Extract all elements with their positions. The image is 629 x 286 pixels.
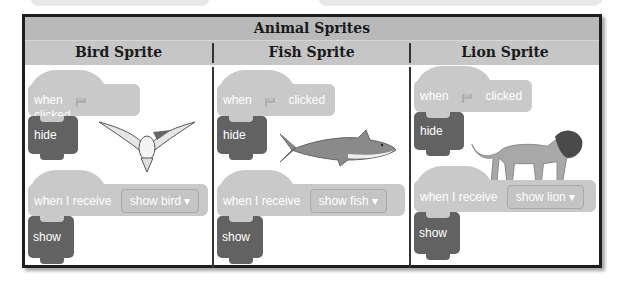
chevron-down-icon: ▾ (569, 190, 575, 204)
when-i-receive-block[interactable]: when I receive show bird ▾ (28, 184, 208, 216)
block-notch (229, 116, 253, 122)
block-notch (40, 116, 64, 122)
when-flag-clicked-block[interactable]: when clicked (28, 84, 140, 116)
hide-block[interactable]: hide (28, 116, 78, 154)
column-fish: Fish Sprite when clicked hide when I rec… (214, 17, 409, 265)
animal-sprites-table: Animal Sprites Bird Sprite when clicked … (22, 14, 602, 268)
green-flag-icon (460, 90, 474, 104)
message-dropdown[interactable]: show lion ▾ (507, 185, 584, 209)
top-decor-left (30, 0, 210, 6)
show-block[interactable]: show (28, 216, 74, 258)
block-notch (40, 216, 64, 222)
hide-block[interactable]: hide (217, 116, 267, 154)
show-block[interactable]: show (217, 216, 263, 258)
block-notch (426, 112, 450, 118)
message-dropdown[interactable]: show bird ▾ (121, 189, 200, 213)
when-flag-clicked-block[interactable]: when clicked (217, 84, 335, 116)
when-flag-clicked-block[interactable]: when clicked (414, 80, 532, 112)
when-i-receive-block[interactable]: when I receive show fish ▾ (217, 184, 405, 216)
chevron-down-icon: ▾ (372, 194, 378, 208)
hide-block[interactable]: hide (414, 112, 464, 150)
block-notch (229, 216, 253, 222)
message-dropdown[interactable]: show fish ▾ (310, 189, 387, 213)
when-i-receive-block[interactable]: when I receive show lion ▾ (414, 180, 596, 212)
shark-icon (278, 127, 398, 169)
show-block[interactable]: show (414, 212, 460, 254)
block-notch (426, 212, 450, 218)
top-decor-right (318, 0, 603, 6)
chevron-down-icon: ▾ (184, 194, 190, 208)
green-flag-icon (263, 94, 277, 108)
column-title-lion: Lion Sprite (411, 40, 599, 64)
green-flag-icon (74, 94, 88, 108)
bird-icon (97, 113, 197, 175)
column-lion: Lion Sprite when clicked hide when I rec… (411, 17, 599, 265)
column-title-fish: Fish Sprite (214, 40, 409, 64)
column-bird: Bird Sprite when clicked hide when I rec… (25, 17, 212, 265)
column-title-bird: Bird Sprite (25, 40, 212, 64)
